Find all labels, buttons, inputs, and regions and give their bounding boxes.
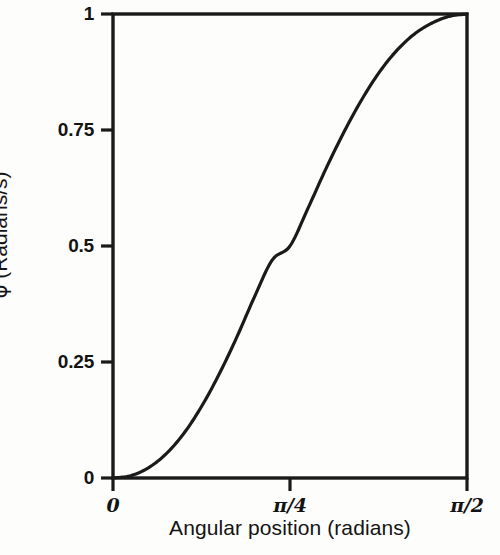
y-tick-label-025: 0.25 <box>34 351 94 373</box>
data-series-line <box>113 14 467 478</box>
x-tick-label-0: 0 <box>106 494 119 516</box>
y-axis-ticks <box>101 14 113 478</box>
x-tick-label-pi-over-4: π/4 <box>273 494 306 516</box>
y-tick-label-05: 0.5 <box>34 235 94 257</box>
figure-container: 1 0.75 0.5 0.25 0 0 π/4 π/2 Angular posi… <box>0 0 500 555</box>
x-axis-ticks <box>113 478 467 491</box>
phi-glyph: φ <box>0 285 12 299</box>
phi-dot-symbol: φ <box>0 285 12 299</box>
y-tick-label-075: 0.75 <box>34 119 94 141</box>
x-tick-label-pi-over-2: π/2 <box>450 494 483 516</box>
y-axis-title: φ (Radians/s) <box>0 171 12 320</box>
y-tick-label-0: 0 <box>44 467 94 489</box>
y-tick-label-1: 1 <box>44 3 94 25</box>
x-axis-title: Angular position (radians) <box>169 516 411 540</box>
chart-page: 1 0.75 0.5 0.25 0 0 π/4 π/2 Angular posi… <box>0 0 500 555</box>
y-axis-title-units: (Radians/s) <box>0 171 11 284</box>
